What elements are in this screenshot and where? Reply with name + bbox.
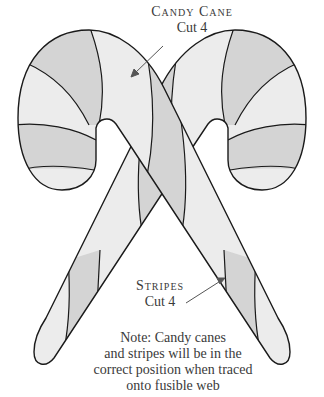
candy-cane-label: Candy Cane Cut 4: [118, 4, 266, 36]
tracing-note: Note: Candy canes and stripes will be in…: [68, 330, 278, 394]
candy-cane-title: Candy Cane: [118, 4, 266, 20]
stripes-label: Stripes Cut 4: [120, 278, 200, 310]
note-line-4: onto fusible web: [68, 378, 278, 394]
note-line-1: Note: Candy canes: [68, 330, 278, 346]
stripes-cut-count: Cut 4: [120, 294, 200, 310]
candy-cane-cut-count: Cut 4: [118, 20, 266, 36]
note-line-2: and stripes will be in the: [68, 346, 278, 362]
note-line-3: correct position when traced: [68, 362, 278, 378]
stripes-title: Stripes: [120, 278, 200, 294]
